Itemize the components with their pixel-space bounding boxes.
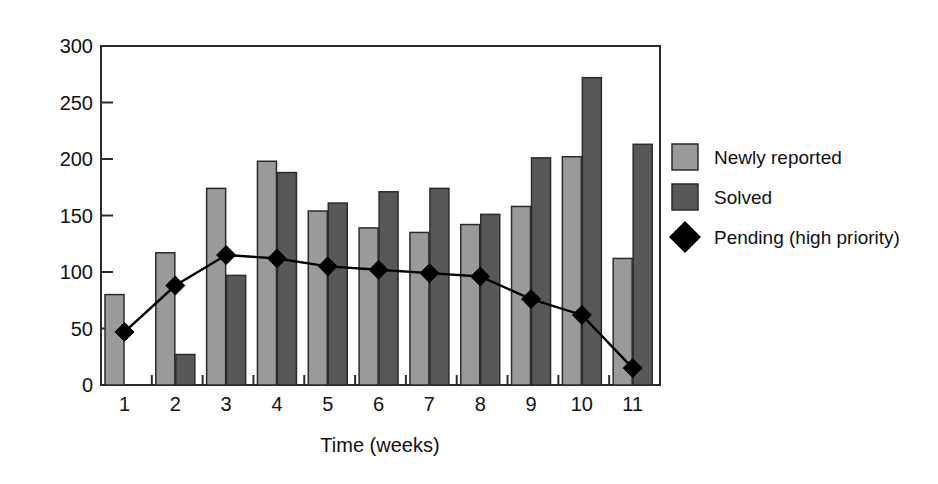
x-axis-label: Time (weeks) [320, 434, 439, 456]
bar-solved [277, 173, 296, 385]
y-tick-label-200: 200 [60, 148, 93, 170]
y-tick-label-50: 50 [71, 318, 93, 340]
legend-swatch-newly-reported [672, 144, 698, 170]
bar-newly-reported [156, 253, 175, 385]
bar-solved [633, 144, 652, 385]
bar-line-chart: 300 250 200 150 100 50 0 1234567891011 T… [0, 0, 938, 484]
x-tick-label-3: 3 [221, 393, 232, 415]
bar-solved [328, 203, 347, 385]
legend-label-1: Solved [714, 187, 772, 208]
bar-solved [379, 192, 398, 385]
bar-solved [582, 78, 601, 385]
x-tick-label-10: 10 [571, 393, 593, 415]
bar-newly-reported [359, 228, 378, 385]
bar-newly-reported [207, 188, 226, 385]
y-tick-label-100: 100 [60, 261, 93, 283]
x-tick-label-7: 7 [424, 393, 435, 415]
bar-solved [227, 275, 246, 385]
x-tick-label-1: 1 [119, 393, 130, 415]
bar-newly-reported [562, 157, 581, 385]
bar-solved [481, 214, 500, 385]
legend-swatch-solved [672, 184, 698, 210]
x-tick-label-8: 8 [475, 393, 486, 415]
x-tick-label-11: 11 [622, 393, 643, 415]
bar-newly-reported [105, 295, 124, 385]
bar-newly-reported [257, 161, 276, 385]
legend-label-2: Pending (high priority) [714, 227, 900, 248]
bar-newly-reported [461, 225, 480, 385]
bar-solved [176, 354, 195, 385]
x-tick-label-2: 2 [170, 393, 181, 415]
x-tick-label-4: 4 [271, 393, 282, 415]
bar-newly-reported [410, 232, 429, 385]
y-tick-label-300: 300 [60, 35, 93, 57]
y-tick-label-0: 0 [82, 374, 93, 396]
x-tick-label-6: 6 [373, 393, 384, 415]
bar-solved [430, 188, 449, 385]
x-tick-label-5: 5 [322, 393, 333, 415]
x-tick-label-9: 9 [525, 393, 536, 415]
y-tick-label-150: 150 [60, 205, 93, 227]
legend-label-0: Newly reported [714, 147, 842, 168]
bar-solved [532, 158, 551, 385]
y-tick-label-250: 250 [60, 92, 93, 114]
bar-newly-reported [308, 211, 327, 385]
